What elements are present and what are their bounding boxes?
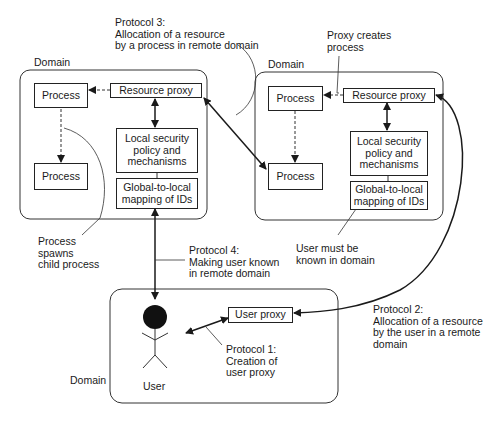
protocol-4-annotation: Protocol 4: Making user known in remote …	[189, 245, 279, 280]
left-id-mapping: Global-to-local mapping of IDs	[116, 178, 198, 209]
left-resource-proxy: Resource proxy	[110, 83, 202, 98]
right-resource-proxy: Resource proxy	[343, 88, 435, 103]
user-known-annotation: User must be known in domain	[296, 243, 375, 266]
left-domain-label: Domain	[34, 57, 70, 69]
proxy-creates-annotation: Proxy creates process	[327, 30, 391, 53]
right-security-policy: Local security policy and mechanisms	[350, 131, 428, 176]
right-process-bottom: Process	[268, 163, 323, 190]
left-security-policy: Local security policy and mechanisms	[116, 128, 198, 173]
left-process-top: Process	[34, 83, 88, 108]
right-id-mapping: Global-to-local mapping of IDs	[350, 181, 428, 210]
user-label: User	[143, 381, 165, 393]
user-figure-icon	[142, 305, 168, 368]
user-domain-label: Domain	[70, 375, 106, 387]
protocol-3-annotation: Protocol 3: Allocation of a resource by …	[115, 17, 259, 52]
user-proxy-box: User proxy	[228, 307, 293, 323]
protocol-2-annotation: Protocol 2: Allocation of a resource by …	[373, 304, 483, 350]
protocol-1-annotation: Protocol 1: Creation of user proxy	[226, 344, 277, 379]
right-domain-label: Domain	[268, 59, 304, 71]
left-process-bottom: Process	[34, 163, 88, 190]
right-process-top: Process	[268, 86, 323, 111]
spawns-annotation: Process spawns child process	[38, 236, 99, 271]
